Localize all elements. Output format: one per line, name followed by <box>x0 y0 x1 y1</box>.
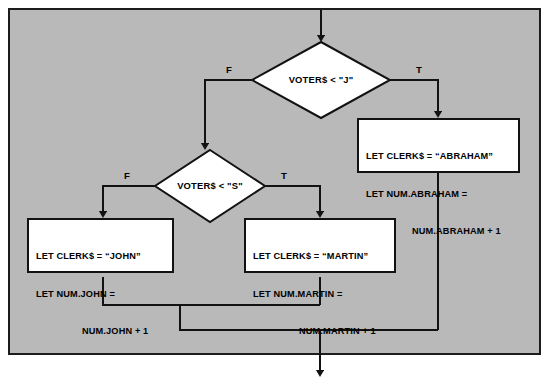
branch-label-s-false: F <box>120 170 134 181</box>
process-abraham: LET CLERK$ = “ABRAHAM” LET NUM.ABRAHAM =… <box>357 118 520 173</box>
branch-label-j-true: T <box>412 64 426 75</box>
process-abraham-line-1: LET CLERK$ = “ABRAHAM” <box>366 150 518 163</box>
branch-label-j-false: F <box>222 64 236 75</box>
process-martin-line-1: LET CLERK$ = “MARTIN” <box>253 250 394 263</box>
branch-j-true <box>390 80 438 114</box>
flowchart-page: VOTER$ < "J" F T VOTER$ < "S" F T LET CL… <box>0 0 551 385</box>
process-john-line-1: LET CLERK$ = “JOHN” <box>36 250 172 263</box>
decision-voters-s-label: VOTER$ < "S" <box>148 180 272 191</box>
branch-j-false <box>205 80 252 146</box>
process-abraham-line-2: LET NUM.ABRAHAM = <box>366 188 518 201</box>
process-john: LET CLERK$ = “JOHN” LET NUM.JOHN = NUM.J… <box>27 218 174 273</box>
process-john-line-2: LET NUM.JOHN = <box>36 288 172 301</box>
decision-voters-j-label: VOTER$ < "J" <box>252 74 390 85</box>
branch-s-true <box>265 186 320 214</box>
process-john-line-3: NUM.JOHN + 1 <box>36 325 172 338</box>
process-martin: LET CLERK$ = “MARTIN” LET NUM.MARTIN = N… <box>244 218 396 273</box>
branch-label-s-true: T <box>277 170 291 181</box>
process-martin-line-3: NUM.MARTIN + 1 <box>253 325 394 338</box>
process-martin-line-2: LET NUM.MARTIN = <box>253 288 394 301</box>
